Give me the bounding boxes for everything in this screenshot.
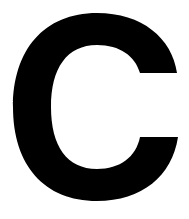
letter-c-graphic: C	[0, 0, 189, 219]
letter-c-icon	[0, 0, 189, 219]
